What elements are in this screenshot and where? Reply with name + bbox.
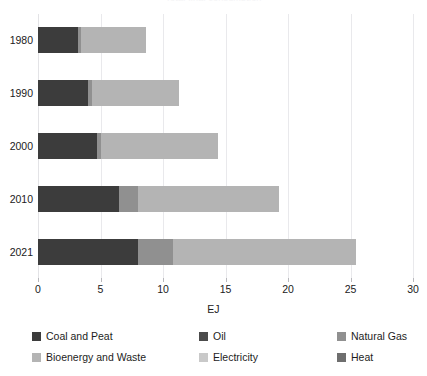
chart-legend: Coal and PeatOilNatural GasBioenergy and… xyxy=(32,331,417,373)
legend-swatch-icon xyxy=(32,353,41,362)
legend-swatch-icon xyxy=(337,332,346,341)
legend-swatch-icon xyxy=(337,353,346,362)
bar-segment[interactable] xyxy=(92,80,180,106)
legend-label: Coal and Peat xyxy=(46,331,113,342)
x-axis-title: EJ xyxy=(0,303,427,315)
x-axis: 051015202530 xyxy=(38,278,413,304)
bar-segment[interactable] xyxy=(81,27,146,53)
x-axis-tick-label: 0 xyxy=(35,283,41,295)
bar-segment[interactable] xyxy=(138,186,279,212)
x-axis-tick-label: 30 xyxy=(407,283,419,295)
x-axis-tick-mark xyxy=(226,278,227,282)
bar-segment[interactable] xyxy=(101,133,219,159)
x-axis-tick-mark xyxy=(351,278,352,282)
x-axis-tick-mark xyxy=(413,278,414,282)
legend-label: Oil xyxy=(213,331,226,342)
gridline xyxy=(413,14,414,278)
legend-item[interactable]: Oil xyxy=(199,331,226,342)
x-axis-tick-label: 5 xyxy=(98,283,104,295)
bar-segment[interactable] xyxy=(173,239,356,265)
bar-row xyxy=(38,80,413,106)
bar-row xyxy=(38,27,413,53)
y-axis-tick-label: 2021 xyxy=(0,246,33,258)
bar-row xyxy=(38,133,413,159)
legend-item[interactable]: Heat xyxy=(337,352,373,363)
legend-label: Natural Gas xyxy=(351,331,407,342)
legend-label: Heat xyxy=(351,352,373,363)
legend-label: Electricity xyxy=(213,352,258,363)
bar-segment[interactable] xyxy=(38,239,138,265)
y-axis-tick-labels: 19801990200020102021 xyxy=(0,14,33,278)
x-axis-tick-mark xyxy=(101,278,102,282)
y-axis-tick-label: 1980 xyxy=(0,34,33,46)
legend-swatch-icon xyxy=(199,353,208,362)
stacked-bar[interactable] xyxy=(38,186,279,212)
x-axis-tick-label: 10 xyxy=(157,283,169,295)
x-axis-tick-label: 20 xyxy=(282,283,294,295)
y-axis-tick-label: 2010 xyxy=(0,193,33,205)
x-axis-tick-label: 15 xyxy=(220,283,232,295)
y-axis-tick-label: 2000 xyxy=(0,140,33,152)
bar-segment[interactable] xyxy=(38,27,78,53)
bar-segment[interactable] xyxy=(38,133,97,159)
bar-segment[interactable] xyxy=(119,186,138,212)
bar-segment[interactable] xyxy=(138,239,173,265)
stacked-bar-chart: Total final consumption 1980199020002010… xyxy=(0,0,427,376)
x-axis-tick-label: 25 xyxy=(345,283,357,295)
stacked-bar[interactable] xyxy=(38,133,218,159)
bar-row xyxy=(38,186,413,212)
chart-title: Total final consumption xyxy=(0,0,427,1)
legend-item[interactable]: Coal and Peat xyxy=(32,331,113,342)
plot-area xyxy=(38,14,413,278)
y-axis-tick-label: 1990 xyxy=(0,87,33,99)
bar-segment[interactable] xyxy=(38,80,88,106)
legend-item[interactable]: Natural Gas xyxy=(337,331,407,342)
legend-item[interactable]: Bioenergy and Waste xyxy=(32,352,146,363)
bar-row xyxy=(38,239,413,265)
legend-swatch-icon xyxy=(32,332,41,341)
x-axis-tick-mark xyxy=(38,278,39,282)
legend-item[interactable]: Electricity xyxy=(199,352,258,363)
stacked-bar[interactable] xyxy=(38,239,356,265)
stacked-bar[interactable] xyxy=(38,80,179,106)
bar-segment[interactable] xyxy=(38,186,119,212)
stacked-bar[interactable] xyxy=(38,27,146,53)
legend-label: Bioenergy and Waste xyxy=(46,352,146,363)
x-axis-tick-mark xyxy=(288,278,289,282)
legend-swatch-icon xyxy=(199,332,208,341)
x-axis-tick-mark xyxy=(163,278,164,282)
